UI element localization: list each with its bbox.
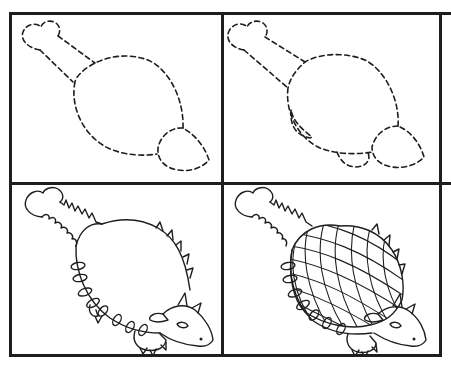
- tail-lower-guide: [40, 50, 73, 82]
- step-3-outline-drawing: [12, 185, 221, 354]
- nostril: [413, 338, 415, 340]
- tail-lower-guide: [244, 50, 288, 88]
- head-guide: [372, 126, 424, 167]
- tail-club-guide: [228, 21, 267, 50]
- body-belly: [76, 246, 160, 333]
- head-outline: [160, 306, 213, 346]
- body-oval-guide: [74, 56, 183, 155]
- tail-club-guide: [22, 21, 59, 50]
- nostril: [200, 338, 202, 340]
- tail-upper-guide: [265, 37, 305, 62]
- rear-claws: [140, 342, 166, 354]
- tail-lower-plates: [42, 215, 77, 246]
- tail-lower-plates: [252, 215, 287, 246]
- step-1-panel: [12, 15, 221, 182]
- body-shell-top: [76, 220, 190, 290]
- grid-bottom-border: [9, 354, 442, 357]
- eye: [390, 322, 401, 327]
- tail-upper-guide: [58, 36, 95, 63]
- step-4-finished-drawing: [224, 185, 439, 354]
- head-guide: [158, 128, 209, 171]
- eye: [177, 322, 188, 327]
- step-3-panel: [12, 185, 221, 354]
- tail-club-outline: [235, 188, 272, 217]
- front-leg-guide: [291, 110, 312, 138]
- head-horns: [393, 294, 415, 314]
- tail-upper-spikes: [60, 200, 102, 224]
- head-horns: [178, 293, 201, 313]
- cheek-spike: [365, 313, 383, 321]
- step-1-guide-shapes: [12, 15, 221, 182]
- step-2-guide-shapes: [224, 15, 439, 182]
- tail-upper-spikes: [270, 200, 312, 226]
- step-4-panel: [224, 185, 439, 354]
- step-2-panel: [224, 15, 439, 182]
- tail-club-outline: [25, 188, 62, 217]
- body-oval-guide: [288, 55, 399, 154]
- drawing-tutorial-grid: [0, 0, 451, 365]
- cheek-spike: [150, 313, 168, 321]
